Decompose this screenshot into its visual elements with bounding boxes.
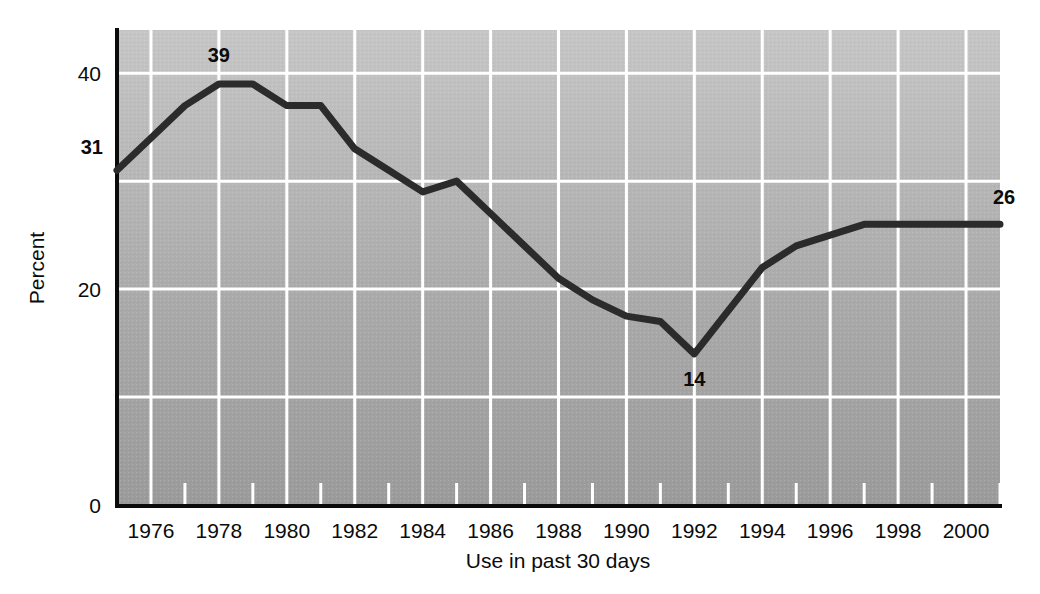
x-tick-label-1990: 1990	[603, 519, 650, 542]
x-axis-tick-labels: 1976197819801982198419861988199019921994…	[128, 519, 990, 542]
x-tick-label-1988: 1988	[535, 519, 582, 542]
y-tick-label-40: 40	[78, 62, 101, 85]
chart-container: 02040 1976197819801982198419861988199019…	[0, 0, 1040, 594]
x-axis-title: Use in past 30 days	[466, 549, 650, 572]
y-axis-tick-labels: 02040	[78, 62, 101, 517]
x-tick-label-1980: 1980	[263, 519, 310, 542]
x-tick-label-1982: 1982	[331, 519, 378, 542]
data-label-26: 26	[993, 186, 1015, 208]
data-label-39: 39	[208, 44, 230, 66]
y-axis-title: Percent	[25, 232, 48, 305]
data-label-14: 14	[683, 368, 706, 390]
x-tick-label-1992: 1992	[671, 519, 718, 542]
x-tick-label-1986: 1986	[467, 519, 514, 542]
x-tick-label-2000: 2000	[943, 519, 990, 542]
x-tick-label-1984: 1984	[399, 519, 446, 542]
y-tick-label-0: 0	[89, 494, 101, 517]
x-tick-label-1998: 1998	[875, 519, 922, 542]
x-tick-label-1994: 1994	[739, 519, 786, 542]
data-label-31: 31	[81, 136, 103, 158]
x-tick-label-1978: 1978	[196, 519, 243, 542]
x-tick-label-1976: 1976	[128, 519, 175, 542]
x-tick-label-1996: 1996	[807, 519, 854, 542]
y-tick-label-20: 20	[78, 278, 101, 301]
line-chart: 02040 1976197819801982198419861988199019…	[0, 0, 1040, 594]
